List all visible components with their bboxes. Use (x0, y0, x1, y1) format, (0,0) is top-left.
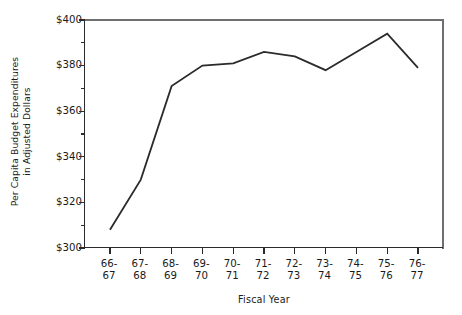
x-axis-tick (387, 248, 388, 254)
y-axis-tick-label: $400 (38, 15, 82, 25)
x-axis-tick (202, 248, 203, 254)
y-axis-tick-major (79, 19, 85, 20)
x-axis-tick (109, 248, 110, 254)
x-axis-tick-label-line-2: 77 (397, 270, 437, 282)
chart-figure: Per Capita Budget Expenditures in Adjust… (0, 0, 462, 315)
y-axis-tick-major (79, 111, 85, 112)
y-axis-tick-minor (81, 133, 85, 134)
y-axis-tick-major (79, 65, 85, 66)
x-axis-tick (140, 248, 141, 254)
x-axis-tick (325, 248, 326, 254)
x-axis-tick (356, 248, 357, 254)
y-axis-title: Per Capita Budget Expenditures in Adjust… (10, 56, 33, 205)
y-axis-tick-minor (81, 225, 85, 226)
y-axis-tick-label: $340 (38, 152, 82, 162)
y-axis-tick-labels: $300$320$340$360$380$400 (36, 0, 82, 315)
y-axis-tick-major (79, 247, 85, 248)
y-axis-tick-label: $300 (38, 243, 82, 253)
x-axis-title: Fiscal Year (84, 294, 444, 305)
data-series-line (85, 20, 444, 248)
y-axis-tick-minor (81, 179, 85, 180)
y-axis-tick-label: $360 (38, 106, 82, 116)
x-axis-tick (233, 248, 234, 254)
x-axis-tick (171, 248, 172, 254)
x-axis-tick-label-line-1: 76- (397, 258, 437, 270)
y-axis-tick-major (79, 156, 85, 157)
x-axis-tick (294, 248, 295, 254)
x-axis-tick-label: 76-77 (397, 258, 437, 283)
x-axis-tick-labels: 66-6767-6868-6969-7070-7171-7272-7373-74… (84, 258, 444, 292)
y-axis-title-line-2: in Adjusted Dollars (21, 56, 33, 205)
plot-area (84, 20, 443, 248)
y-axis-tick-label: $380 (38, 60, 82, 70)
y-axis-tick-major (79, 202, 85, 203)
x-axis-tick (263, 248, 264, 254)
y-axis-title-line-1: Per Capita Budget Expenditures (10, 56, 22, 205)
y-axis-tick-minor (81, 88, 85, 89)
y-axis-tick-label: $320 (38, 197, 82, 207)
y-axis-tick-minor (81, 42, 85, 43)
x-axis-tick (417, 248, 418, 254)
expenditure-line (110, 34, 418, 230)
